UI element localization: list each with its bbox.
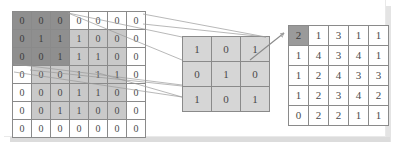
input-cell-r6-c4: 0	[89, 120, 108, 138]
input-cell-r5-c0: 0	[13, 102, 32, 120]
input-cell-r2-c0: 0	[13, 48, 32, 66]
input-cell-r3-c2: 0	[51, 66, 70, 84]
input-cell-r0-c3: 0	[70, 12, 89, 30]
output-cell-r1-c1: 4	[309, 46, 329, 66]
kernel-matrix: 101010101	[182, 36, 270, 112]
matrix-row: 12433	[289, 66, 389, 86]
convolution-figure: 0000000011100000111000001110000110000110…	[0, 0, 396, 164]
input-cell-r1-c4: 0	[89, 30, 108, 48]
input-cell-r4-c6: 0	[127, 84, 146, 102]
matrix-row: 0011000	[13, 102, 146, 120]
output-cell-r0-c3: 1	[349, 26, 369, 46]
kernel-cell-r1-c1: 1	[212, 62, 241, 87]
output-cell-r1-c4: 1	[369, 46, 389, 66]
matrix-row: 101	[183, 37, 270, 62]
input-cell-r5-c1: 0	[32, 102, 51, 120]
output-cell-r0-c4: 1	[369, 26, 389, 46]
matrix-row: 0011100	[13, 48, 146, 66]
input-cell-r3-c6: 0	[127, 66, 146, 84]
kernel-cell-r1-c2: 0	[241, 62, 270, 87]
input-cell-r4-c2: 0	[51, 84, 70, 102]
output-cell-r2-c3: 3	[349, 66, 369, 86]
output-cell-r4-c3: 1	[349, 106, 369, 126]
input-cell-r6-c1: 0	[32, 120, 51, 138]
kernel-matrix-body: 101010101	[183, 37, 270, 112]
input-cell-r2-c5: 0	[108, 48, 127, 66]
input-cell-r0-c4: 0	[89, 12, 108, 30]
output-cell-r0-c1: 1	[309, 26, 329, 46]
input-cell-r6-c0: 0	[13, 120, 32, 138]
input-cell-r2-c4: 1	[89, 48, 108, 66]
kernel-cell-r2-c2: 1	[241, 87, 270, 112]
matrix-row: 0001100	[13, 84, 146, 102]
output-matrix-body: 2131114341124331234202211	[289, 26, 389, 126]
output-cell-r0-c2: 3	[329, 26, 349, 46]
input-cell-r1-c6: 0	[127, 30, 146, 48]
input-cell-r5-c2: 1	[51, 102, 70, 120]
input-cell-r4-c5: 0	[108, 84, 127, 102]
input-cell-r3-c0: 0	[13, 66, 32, 84]
input-cell-r6-c5: 0	[108, 120, 127, 138]
input-cell-r5-c5: 0	[108, 102, 127, 120]
matrix-row: 0111000	[13, 30, 146, 48]
matrix-row: 0001110	[13, 66, 146, 84]
output-cell-r2-c0: 1	[289, 66, 309, 86]
output-cell-r4-c1: 2	[309, 106, 329, 126]
input-cell-r1-c3: 1	[70, 30, 89, 48]
input-cell-r2-c1: 0	[32, 48, 51, 66]
input-cell-r3-c1: 0	[32, 66, 51, 84]
output-cell-r3-c2: 3	[329, 86, 349, 106]
input-cell-r0-c6: 0	[127, 12, 146, 30]
output-cell-r4-c0: 0	[289, 106, 309, 126]
output-cell-r2-c2: 4	[329, 66, 349, 86]
output-cell-r1-c2: 3	[329, 46, 349, 66]
input-cell-r3-c3: 1	[70, 66, 89, 84]
kernel-cell-r0-c2: 1	[241, 37, 270, 62]
kernel-cell-r1-c0: 0	[183, 62, 212, 87]
input-cell-r5-c3: 1	[70, 102, 89, 120]
matrix-row: 010	[183, 62, 270, 87]
input-cell-r5-c4: 0	[89, 102, 108, 120]
input-cell-r3-c4: 1	[89, 66, 108, 84]
input-cell-r5-c6: 0	[127, 102, 146, 120]
input-cell-r2-c2: 1	[51, 48, 70, 66]
output-cell-r3-c0: 1	[289, 86, 309, 106]
matrix-row: 12342	[289, 86, 389, 106]
matrix-row: 0000000	[13, 12, 146, 30]
kernel-cell-r0-c0: 1	[183, 37, 212, 62]
output-cell-r3-c4: 2	[369, 86, 389, 106]
input-cell-r2-c6: 0	[127, 48, 146, 66]
input-cell-r4-c4: 1	[89, 84, 108, 102]
kernel-cell-r0-c1: 0	[212, 37, 241, 62]
output-cell-r3-c3: 4	[349, 86, 369, 106]
output-cell-r1-c0: 1	[289, 46, 309, 66]
input-cell-r6-c2: 0	[51, 120, 70, 138]
input-cell-r6-c6: 0	[127, 120, 146, 138]
input-cell-r1-c1: 1	[32, 30, 51, 48]
input-matrix-body: 0000000011100000111000001110000110000110…	[13, 12, 146, 138]
input-cell-r1-c5: 0	[108, 30, 127, 48]
output-cell-r1-c3: 4	[349, 46, 369, 66]
input-cell-r1-c0: 0	[13, 30, 32, 48]
matrix-row: 02211	[289, 106, 389, 126]
output-matrix: 2131114341124331234202211	[288, 25, 389, 126]
output-cell-r2-c1: 2	[309, 66, 329, 86]
input-cell-r1-c2: 1	[51, 30, 70, 48]
output-cell-r4-c2: 2	[329, 106, 349, 126]
matrix-row: 14341	[289, 46, 389, 66]
input-cell-r6-c3: 0	[70, 120, 89, 138]
input-matrix: 0000000011100000111000001110000110000110…	[12, 11, 146, 138]
input-cell-r2-c3: 1	[70, 48, 89, 66]
kernel-cell-r2-c0: 1	[183, 87, 212, 112]
input-cell-r0-c1: 0	[32, 12, 51, 30]
matrix-row: 21311	[289, 26, 389, 46]
output-cell-r0-c0: 2	[289, 26, 309, 46]
matrix-row: 0000000	[13, 120, 146, 138]
output-cell-r2-c4: 3	[369, 66, 389, 86]
input-cell-r0-c2: 0	[51, 12, 70, 30]
input-cell-r4-c3: 1	[70, 84, 89, 102]
input-cell-r4-c1: 0	[32, 84, 51, 102]
output-cell-r4-c4: 1	[369, 106, 389, 126]
input-cell-r4-c0: 0	[13, 84, 32, 102]
matrix-row: 101	[183, 87, 270, 112]
